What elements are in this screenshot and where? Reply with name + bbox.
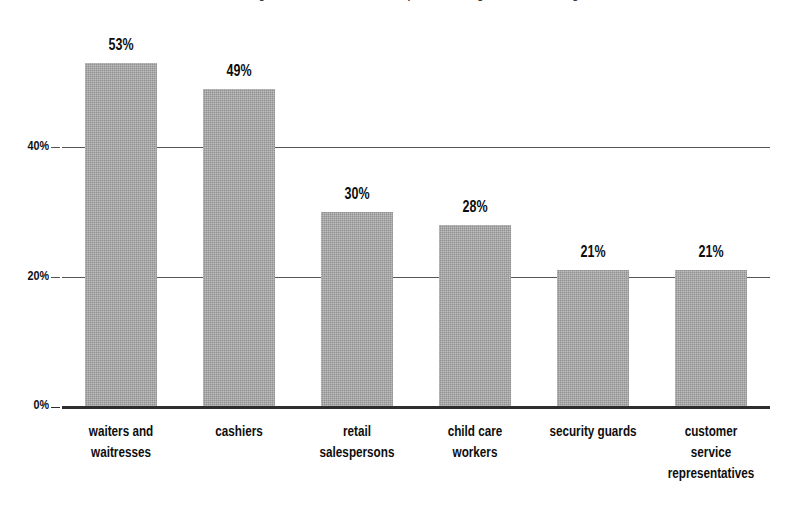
y-tick-mark	[51, 147, 60, 148]
bar-value-label: 30%	[313, 185, 400, 203]
y-axis-tick-label: 0%	[12, 397, 49, 412]
bar-value-label: 28%	[431, 198, 518, 216]
bar	[557, 270, 629, 406]
bar	[85, 63, 157, 406]
x-axis-category-label: cashiers	[193, 420, 285, 441]
x-axis-category-label: waiters and waitresses	[75, 420, 167, 462]
axis-baseline	[62, 406, 770, 409]
y-axis-tick-label: 20%	[12, 268, 49, 283]
bar	[439, 225, 511, 406]
y-tick-mark	[51, 277, 60, 278]
bar-chart: Percentage of workers in selected occupa…	[0, 0, 800, 528]
gridline-20	[62, 277, 770, 278]
bar-value-label: 53%	[77, 36, 164, 54]
bar-value-label: 21%	[667, 243, 754, 261]
bar	[321, 212, 393, 406]
chart-title: Percentage of workers in selected occupa…	[0, 0, 800, 1]
bar-value-label: 49%	[195, 62, 282, 80]
bar	[675, 270, 747, 406]
bar-value-label: 21%	[549, 243, 636, 261]
y-tick-mark	[51, 407, 60, 408]
bar	[203, 89, 275, 406]
plot-area: 0%20%40%53%49%30%28%21%21%	[62, 18, 770, 406]
x-axis-category-label: security guards	[547, 420, 639, 441]
y-axis-tick-label: 40%	[12, 138, 49, 153]
x-axis-category-label: child care workers	[429, 420, 521, 462]
x-axis-category-label: customer service representatives	[665, 420, 757, 483]
x-axis-category-label: retail salespersons	[311, 420, 403, 462]
gridline-40	[62, 147, 770, 148]
